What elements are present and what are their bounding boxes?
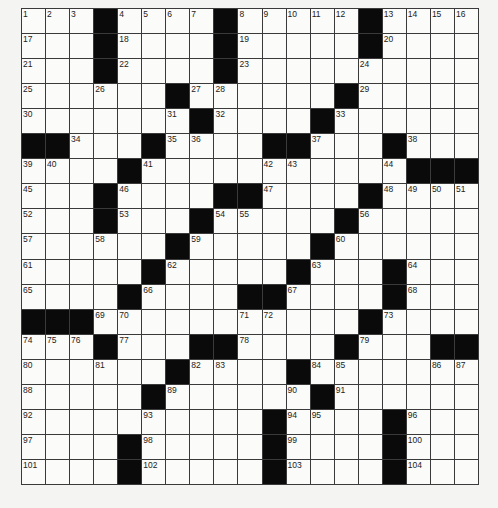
grid-cell[interactable] (70, 460, 93, 484)
grid-cell[interactable] (70, 410, 93, 434)
grid-cell[interactable]: 23 (238, 59, 261, 83)
grid-cell[interactable]: 82 (190, 360, 213, 384)
grid-cell[interactable]: 38 (407, 134, 430, 158)
grid-cell[interactable]: 83 (214, 360, 237, 384)
grid-cell[interactable]: 88 (22, 385, 45, 409)
grid-cell[interactable] (190, 310, 213, 334)
grid-cell[interactable] (383, 84, 406, 108)
grid-cell[interactable] (214, 385, 237, 409)
grid-cell[interactable] (190, 435, 213, 459)
grid-cell[interactable]: 44 (383, 159, 406, 183)
grid-cell[interactable] (359, 159, 382, 183)
grid-cell[interactable]: 96 (407, 410, 430, 434)
grid-cell[interactable] (455, 234, 478, 258)
grid-cell[interactable] (46, 84, 69, 108)
grid-cell[interactable]: 10 (287, 9, 310, 33)
grid-cell[interactable] (238, 360, 261, 384)
grid-cell[interactable]: 99 (287, 435, 310, 459)
grid-cell[interactable] (214, 460, 237, 484)
grid-cell[interactable] (142, 360, 165, 384)
grid-cell[interactable]: 104 (407, 460, 430, 484)
grid-cell[interactable]: 62 (166, 260, 189, 284)
grid-cell[interactable] (407, 109, 430, 133)
grid-cell[interactable]: 81 (94, 360, 117, 384)
grid-cell[interactable]: 16 (455, 9, 478, 33)
grid-cell[interactable] (455, 134, 478, 158)
grid-cell[interactable] (214, 159, 237, 183)
grid-cell[interactable] (263, 109, 286, 133)
grid-cell[interactable] (407, 209, 430, 233)
grid-cell[interactable] (46, 209, 69, 233)
grid-cell[interactable] (455, 84, 478, 108)
grid-cell[interactable] (335, 410, 358, 434)
grid-cell[interactable] (263, 59, 286, 83)
grid-cell[interactable] (166, 460, 189, 484)
grid-cell[interactable] (431, 109, 454, 133)
grid-cell[interactable] (263, 84, 286, 108)
grid-cell[interactable] (431, 435, 454, 459)
grid-cell[interactable] (359, 285, 382, 309)
grid-cell[interactable] (455, 460, 478, 484)
grid-cell[interactable] (311, 184, 334, 208)
grid-cell[interactable]: 77 (118, 335, 141, 359)
grid-cell[interactable] (238, 159, 261, 183)
grid-cell[interactable] (359, 234, 382, 258)
grid-cell[interactable]: 86 (431, 360, 454, 384)
grid-cell[interactable]: 9 (263, 9, 286, 33)
grid-cell[interactable]: 76 (70, 335, 93, 359)
grid-cell[interactable] (94, 460, 117, 484)
grid-cell[interactable] (431, 310, 454, 334)
grid-cell[interactable] (214, 234, 237, 258)
grid-cell[interactable] (70, 184, 93, 208)
grid-cell[interactable] (118, 234, 141, 258)
grid-cell[interactable] (190, 184, 213, 208)
grid-cell[interactable]: 41 (142, 159, 165, 183)
grid-cell[interactable]: 48 (383, 184, 406, 208)
grid-cell[interactable] (455, 260, 478, 284)
grid-cell[interactable]: 103 (287, 460, 310, 484)
grid-cell[interactable] (287, 234, 310, 258)
grid-cell[interactable]: 64 (407, 260, 430, 284)
grid-cell[interactable] (455, 385, 478, 409)
grid-cell[interactable]: 84 (311, 360, 334, 384)
grid-cell[interactable]: 56 (359, 209, 382, 233)
grid-cell[interactable] (263, 260, 286, 284)
grid-cell[interactable]: 31 (166, 109, 189, 133)
grid-cell[interactable] (311, 435, 334, 459)
grid-cell[interactable] (70, 360, 93, 384)
grid-cell[interactable] (70, 234, 93, 258)
grid-cell[interactable] (190, 385, 213, 409)
grid-cell[interactable] (407, 34, 430, 58)
grid-cell[interactable]: 18 (118, 34, 141, 58)
grid-cell[interactable] (94, 435, 117, 459)
grid-cell[interactable] (455, 410, 478, 434)
grid-cell[interactable] (70, 34, 93, 58)
grid-cell[interactable]: 58 (94, 234, 117, 258)
grid-cell[interactable]: 2 (46, 9, 69, 33)
grid-cell[interactable]: 102 (142, 460, 165, 484)
grid-cell[interactable]: 27 (190, 84, 213, 108)
grid-cell[interactable] (214, 260, 237, 284)
grid-cell[interactable] (142, 59, 165, 83)
grid-cell[interactable]: 95 (311, 410, 334, 434)
grid-cell[interactable]: 35 (166, 134, 189, 158)
grid-cell[interactable]: 42 (263, 159, 286, 183)
grid-cell[interactable]: 70 (118, 310, 141, 334)
grid-cell[interactable] (311, 59, 334, 83)
grid-cell[interactable] (383, 385, 406, 409)
grid-cell[interactable] (214, 435, 237, 459)
grid-cell[interactable] (190, 460, 213, 484)
grid-cell[interactable]: 67 (287, 285, 310, 309)
grid-cell[interactable] (46, 385, 69, 409)
grid-cell[interactable] (166, 184, 189, 208)
grid-cell[interactable] (142, 335, 165, 359)
grid-cell[interactable]: 24 (359, 59, 382, 83)
grid-cell[interactable] (46, 410, 69, 434)
grid-cell[interactable]: 30 (22, 109, 45, 133)
grid-cell[interactable] (238, 385, 261, 409)
grid-cell[interactable]: 72 (263, 310, 286, 334)
grid-cell[interactable]: 45 (22, 184, 45, 208)
grid-cell[interactable] (214, 410, 237, 434)
grid-cell[interactable]: 85 (335, 360, 358, 384)
grid-cell[interactable] (431, 134, 454, 158)
